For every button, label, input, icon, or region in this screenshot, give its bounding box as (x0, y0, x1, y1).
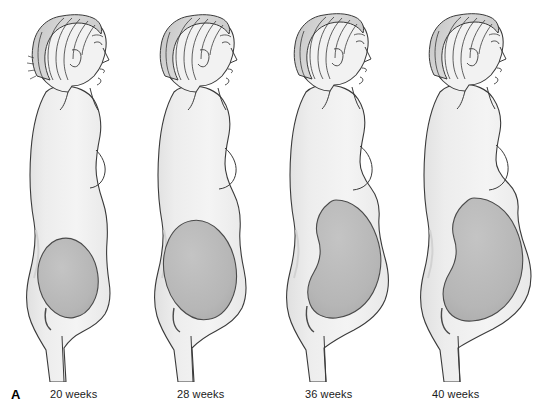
chin-line (97, 78, 101, 85)
pregnancy-progression-figure (0, 0, 553, 416)
illustration-36-weeks (270, 0, 410, 382)
caption-row: A 20 weeks 28 weeks 36 weeks 40 weeks (0, 382, 553, 416)
caption-20-weeks: 20 weeks (50, 388, 97, 400)
figure-panel-36-weeks (270, 0, 410, 382)
chin-line (359, 77, 363, 84)
illustration-40-weeks (404, 0, 552, 382)
chin-line (225, 78, 229, 85)
chin-line (494, 77, 498, 84)
illustration-20-weeks (6, 0, 142, 382)
figure-panel-20-weeks (6, 0, 142, 382)
caption-40-weeks: 40 weeks (432, 388, 479, 400)
caption-28-weeks: 28 weeks (177, 388, 224, 400)
lips-line (362, 68, 366, 72)
illustration-28-weeks (136, 0, 272, 382)
lips-line (228, 69, 232, 73)
caption-36-weeks: 36 weeks (305, 388, 352, 400)
body-silhouette (26, 86, 110, 382)
lips-line (497, 68, 501, 72)
figure-panel-40-weeks (404, 0, 552, 382)
plate-letter: A (11, 387, 20, 402)
lips-line (100, 69, 104, 73)
figure-panel-28-weeks (136, 0, 272, 382)
